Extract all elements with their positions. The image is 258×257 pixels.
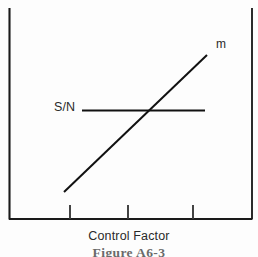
series-label-sn: S/N xyxy=(54,101,75,114)
figure-caption: Figure A6-3 xyxy=(0,245,258,257)
series-line-m xyxy=(64,55,207,192)
series-label-m: m xyxy=(216,38,226,50)
figure-container: S/N m Control Factor Figure A6-3 xyxy=(0,0,258,257)
x-axis-title: Control Factor xyxy=(0,229,258,243)
